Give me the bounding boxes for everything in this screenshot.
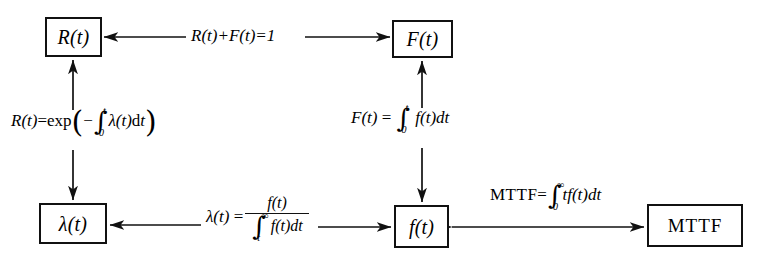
r-exp-open-paren: ( [72,104,84,139]
r-exp-minus: − [83,111,93,130]
edge-label-reliability-sum-text: R(t)+F(t)=1 [191,27,275,45]
r-exp-lhs: R(t) [11,111,37,130]
lambda-def-differential: dt [290,217,302,234]
edge-label-reliability-sum: R(t)+F(t)=1 [188,26,278,45]
lambda-def-fraction: f(t)∫∞t f(t)dt [245,195,309,239]
node-mttf-label: MTTF [668,216,723,235]
node-reliability[interactable]: R(t) [45,17,102,57]
f-int-lhs: F(t) [351,108,377,127]
node-mttf[interactable]: MTTF [647,204,743,247]
node-reliability-label: R(t) [58,27,90,47]
edge-label-hazard-definition: λ(t) =f(t)∫∞t f(t)dt [203,196,314,240]
f-int-lower-limit: 0 [402,125,407,136]
lambda-def-lhs: λ(t) [206,207,229,226]
mttf-def-differential: dt [588,185,601,204]
lambda-def-equals: = [234,207,244,226]
node-unreliability[interactable]: F(t) [392,20,453,58]
node-hazard-rate-label: λ(t) [59,214,87,234]
r-exp-fn: exp [47,111,72,130]
lambda-def-lower-limit: t [257,233,260,244]
mttf-def-lhs: MTTF [490,185,537,204]
lambda-def-integral-icon: ∫∞t [252,216,266,239]
r-exp-lower-limit: 0 [99,128,104,139]
mttf-def-lower-limit: 0 [553,202,558,213]
edge-label-reliability-exp: R(t)=exp(−∫t0λ(t)dt) [8,110,160,134]
mttf-def-integral-icon: ∫∞0 [548,185,562,208]
node-unreliability-label: F(t) [407,29,439,49]
r-exp-close-paren: ) [145,104,157,139]
node-failure-density-label: f(t) [409,217,434,237]
r-exp-equals: = [37,111,47,130]
f-int-upper-limit: t [406,103,409,114]
r-exp-upper-limit: t [103,106,106,117]
node-hazard-rate[interactable]: λ(t) [39,203,107,244]
mttf-def-equals: = [537,185,547,204]
mttf-def-integrand: tf(t) [562,185,588,204]
r-exp-integrand: λ(t) [108,111,131,130]
edge-label-mttf-definition: MTTF=∫∞0tf(t)dt [487,185,604,208]
lambda-def-upper-limit: ∞ [261,211,268,222]
f-int-equals: = [382,108,392,127]
edge-label-unreliability-integral: F(t) = ∫t0 f(t)dt [348,108,452,131]
f-int-integral-icon: ∫t0 [397,108,411,131]
f-int-integrand: f(t) [415,108,436,127]
f-int-differential: dt [436,108,449,127]
diagram-canvas: R(t) F(t) λ(t) f(t) MTTF R(t)+F(t)=1 R(t… [0,0,758,257]
lambda-def-integrand: f(t) [271,217,291,234]
mttf-def-upper-limit: ∞ [557,180,564,191]
node-failure-density[interactable]: f(t) [394,205,449,248]
r-exp-integral-icon: ∫t0 [94,111,108,134]
